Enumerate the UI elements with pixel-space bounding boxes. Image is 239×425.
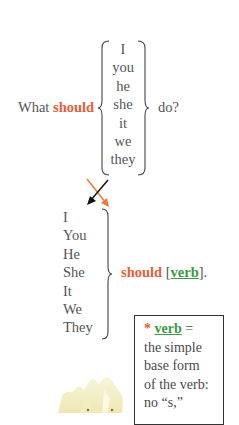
pronoun-item: You — [63, 226, 93, 244]
pronoun-item: It — [63, 282, 93, 300]
pronoun-item: I — [108, 40, 138, 58]
right-brace-icon — [101, 208, 113, 340]
note-star: * — [144, 321, 151, 336]
answer-verb: verb — [171, 264, 199, 280]
note-heading: * verb = — [144, 320, 218, 339]
answer-modal: should — [121, 264, 162, 280]
note-line: base form — [144, 357, 218, 376]
pronoun-item: They — [63, 318, 93, 336]
pronoun-item: we — [108, 132, 138, 150]
pronoun-item: they — [108, 150, 138, 168]
question-pronoun-list: I you he she it we they — [108, 40, 138, 169]
question-lead: What should — [18, 99, 94, 116]
question-suffix: do? — [158, 99, 179, 116]
arrows-icon — [80, 176, 120, 212]
pronoun-item: you — [108, 58, 138, 76]
pronoun-item: I — [63, 208, 93, 226]
answer-line: should [verb]. — [121, 264, 207, 281]
note-line: of the verb: — [144, 376, 218, 395]
bracket-close: ]. — [199, 264, 207, 280]
right-brace-icon — [137, 40, 149, 176]
pronoun-item: she — [108, 95, 138, 113]
candle-image-icon — [50, 370, 134, 413]
verb-definition-note: * verb = the simple base form of the ver… — [134, 315, 224, 425]
note-term: verb — [155, 321, 182, 336]
note-equals: = — [182, 321, 193, 336]
question-modal: should — [53, 99, 94, 115]
note-line: the simple — [144, 339, 218, 358]
bracket-open: [ — [162, 264, 170, 280]
pronoun-item: She — [63, 263, 93, 281]
pronoun-item: he — [108, 77, 138, 95]
pronoun-item: He — [63, 245, 93, 263]
answer-pronoun-list: I You He She It We They — [63, 208, 93, 337]
note-line: no “s,” — [144, 394, 218, 413]
pronoun-item: it — [108, 114, 138, 132]
question-prefix: What — [18, 99, 53, 115]
pronoun-item: We — [63, 300, 93, 318]
